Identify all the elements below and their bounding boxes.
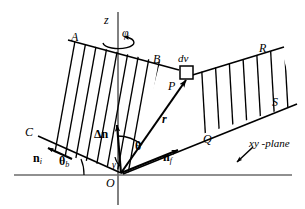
label-B: B: [153, 53, 160, 65]
label-vector-n-f: nf: [163, 151, 172, 165]
label-angle-theta-b: θb: [59, 155, 69, 169]
label-Q: Q: [203, 133, 212, 145]
label-angle-gamma: γ: [112, 160, 116, 170]
label-phi: φ: [122, 27, 129, 39]
label-n-f-base: n: [163, 150, 170, 164]
label-n-i-base: n: [33, 151, 40, 165]
label-S: S: [272, 96, 278, 108]
figure-canvas: z φ A B C R S Q P dv r Δn ni nf θ θb γ O…: [0, 0, 305, 209]
label-A: A: [71, 31, 78, 43]
label-z-axis: z: [104, 14, 109, 26]
xy-plane-callout-arrow: [237, 147, 253, 162]
label-n-i-subscript: i: [40, 157, 42, 166]
angle-arc-theta-b: [81, 159, 84, 175]
label-C: C: [25, 126, 33, 138]
label-vector-r: r: [162, 113, 167, 125]
label-angle-theta: θ: [135, 140, 141, 152]
label-P: P: [168, 80, 175, 92]
label-theta-b-subscript: b: [65, 160, 69, 169]
slab-right-hatching: [200, 40, 290, 145]
label-xy-plane: xy -plane: [249, 138, 290, 149]
label-vector-n-i: ni: [33, 152, 42, 166]
dv-volume-element-square: [180, 66, 193, 79]
label-dv: dv: [178, 53, 188, 64]
label-vector-delta-n: Δn: [94, 128, 108, 140]
label-R: R: [259, 42, 266, 54]
slab-right-top-edge-PR: [186, 47, 284, 77]
label-n-f-subscript: f: [170, 156, 172, 165]
diagram-graphics: [0, 0, 305, 209]
slab-left-top-edge-AB: [68, 40, 179, 70]
label-origin-O: O: [106, 177, 115, 189]
